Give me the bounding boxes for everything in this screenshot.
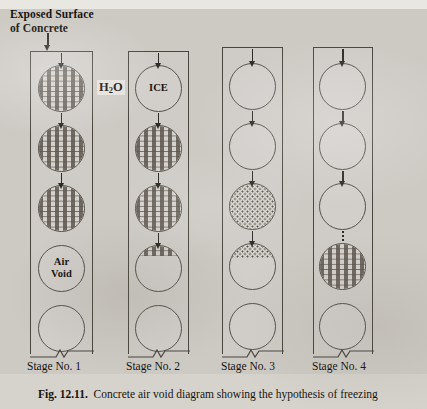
stage-3-void-3 [229, 183, 276, 230]
stage-4-void-4-fill [320, 244, 365, 289]
figure-caption-number: Fig. 12.11. [38, 388, 88, 400]
stage-3-void-5 [229, 303, 276, 350]
figure-caption: Fig. 12.11. Concrete air void diagram sh… [38, 387, 418, 401]
exposed-surface-label: Exposed Surface of Concrete [10, 8, 94, 35]
stage-4-void-5 [319, 303, 366, 350]
figure-caption-text: Concrete air void diagram showing the hy… [94, 388, 378, 400]
stage-2-label: Stage No. 2 [126, 360, 180, 373]
stage-4-void-2 [319, 123, 366, 170]
exposed-surface-label-line1: Exposed Surface [10, 8, 94, 22]
stage-1-void-1 [38, 65, 85, 112]
air-void-label-line2: Void [38, 268, 85, 280]
air-void-label-line1: Air [38, 256, 85, 268]
stage-3-break-symbol [222, 346, 284, 360]
stage-2-void-3 [135, 185, 182, 232]
stage-3-label: Stage No. 3 [221, 360, 275, 373]
stage-3-void-3-fill [230, 184, 275, 229]
figure-page: Exposed Surface of Concrete H2O Air Void… [0, 0, 427, 409]
stage-1-void-2 [38, 125, 85, 172]
stage-4-void-3 [319, 183, 366, 230]
stage-1-void-3-fill [39, 186, 84, 231]
stage-4-break-symbol [313, 346, 374, 360]
exposed-surface-label-line2: of Concrete [10, 22, 94, 36]
stage-3-void-2 [229, 123, 276, 170]
stage-2-void-5 [135, 305, 182, 352]
stage-3-void-1 [229, 63, 276, 110]
stage-2-void-2-fill [136, 126, 181, 171]
stage-3-void-4 [229, 243, 276, 290]
stage-1-break-symbol [30, 346, 94, 360]
stage-4-void-1 [319, 63, 366, 110]
stage-1-label: Stage No. 1 [27, 360, 81, 373]
stage-1-void-3 [38, 185, 85, 232]
ice-label: ICE [135, 82, 182, 94]
stage-4-label: Stage No. 4 [312, 360, 366, 373]
air-void-label: Air Void [38, 256, 85, 279]
stage-2-void-3-fill [136, 186, 181, 231]
stage-1-void-1-fill [39, 66, 84, 111]
water-label-suffix: O [113, 80, 123, 94]
stage-1-void-2-fill [39, 126, 84, 171]
stage-1-void-5 [38, 305, 85, 352]
stage-2-void-2 [135, 125, 182, 172]
stage-2-void-4 [135, 245, 182, 292]
water-label: H2O [97, 80, 125, 95]
stage-4-void-4 [319, 243, 366, 290]
stage-2-break-symbol [128, 346, 190, 360]
water-label-prefix: H [99, 80, 109, 94]
